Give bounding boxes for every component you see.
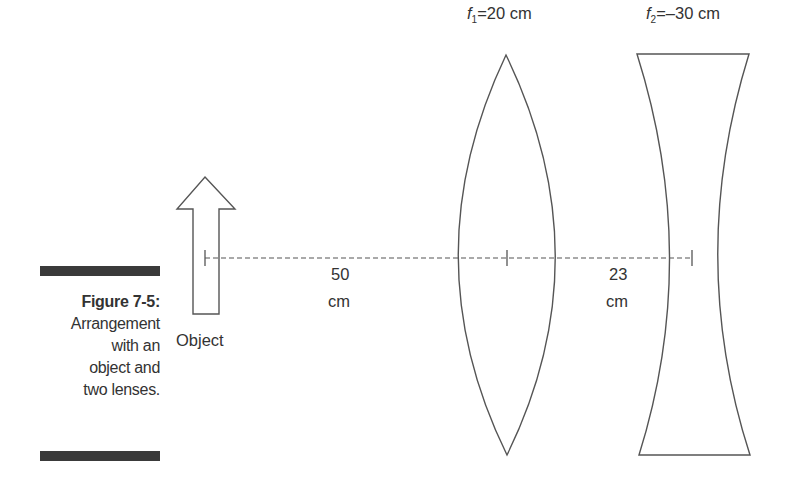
distance-2-unit: cm <box>606 292 628 311</box>
lens1-focal-label: f1=20 cm <box>467 4 532 25</box>
diverging-lens-shape <box>637 54 750 455</box>
distance-1-unit: cm <box>328 292 350 311</box>
object-arrow-icon <box>177 177 235 314</box>
lens2-focal-label: f2=–30 cm <box>646 4 720 25</box>
object-label: Object <box>176 331 224 350</box>
distance-2-value: 23 <box>609 265 627 284</box>
optics-diagram <box>0 0 789 483</box>
distance-1-value: 50 <box>331 265 349 284</box>
